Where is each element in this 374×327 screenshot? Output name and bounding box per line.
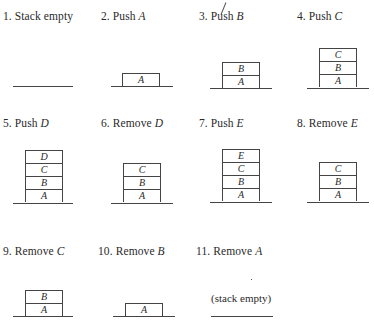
step-number: 3. [199, 10, 208, 22]
step-action-text: Push [15, 117, 38, 129]
step-action-text: Push [211, 117, 234, 129]
stack-cell: A [25, 303, 63, 316]
step-symbol: C [57, 245, 65, 257]
step-number: 5. [3, 117, 12, 129]
step-label: 6. Remove D [101, 117, 163, 129]
step-number: 10. [98, 245, 113, 257]
stack: BA [222, 62, 260, 88]
step-symbol: C [335, 10, 343, 22]
stack-cell: A [319, 74, 357, 87]
stack-baseline [13, 203, 73, 204]
stack-cell: C [319, 48, 357, 61]
step-number: 11. [196, 245, 210, 257]
stack-cell: B [319, 61, 357, 74]
stack-baseline [13, 86, 73, 87]
stack-cell: A [123, 189, 161, 202]
stack-cell: E [222, 149, 260, 162]
stack-cell: B [319, 175, 357, 188]
step-label: 2. Push A [101, 10, 146, 22]
step-label: 9. Remove C [3, 245, 65, 257]
step-label: 4. Push C [297, 10, 342, 22]
stack-cell: C [319, 162, 357, 175]
stack-baseline [111, 203, 173, 204]
stack: BA [25, 290, 63, 316]
step-symbol: D [41, 117, 49, 129]
step-label: 11. Remove A [196, 245, 262, 257]
step-action-text: Push [309, 10, 332, 22]
stack: CBA [319, 162, 357, 201]
step-number: 6. [101, 117, 110, 129]
stack-baseline [210, 202, 272, 203]
step-action-text: Push [113, 10, 136, 22]
step-action-text: Remove [113, 117, 152, 129]
step-number: 1. [3, 10, 12, 22]
step-symbol: A [139, 10, 146, 22]
stack-cell: B [123, 176, 161, 189]
step-symbol: D [155, 117, 163, 129]
stack-cell: B [222, 175, 260, 188]
stack-cell: A [122, 73, 160, 86]
step-label: 5. Push D [3, 117, 49, 129]
step-action-text: Remove [15, 245, 54, 257]
stack-baseline [113, 316, 175, 317]
step-action-text: Remove [213, 245, 252, 257]
stack-cell: A [125, 303, 163, 316]
stack-cell: D [25, 150, 63, 163]
stack-baseline [307, 88, 369, 89]
stack-cell: A [222, 75, 260, 88]
step-number: 4. [297, 10, 306, 22]
stack-cell: B [222, 62, 260, 75]
stack-baseline [111, 86, 173, 87]
stack-baseline [13, 316, 73, 317]
stack-cell: C [222, 162, 260, 175]
step-action-text: Remove [309, 117, 348, 129]
step-symbol: B [158, 245, 165, 257]
stack-cell: A [319, 188, 357, 201]
step-action-text: Remove [116, 245, 155, 257]
step-action-text: Stack empty [15, 10, 73, 22]
step-number: 7. [199, 117, 208, 129]
stack: CBA [319, 48, 357, 87]
step-label: 8. Remove E [297, 117, 358, 129]
step-label: 1. Stack empty [3, 10, 73, 22]
stack-cell: C [25, 163, 63, 176]
step-number: 8. [297, 117, 306, 129]
step-symbol: B [237, 10, 244, 22]
stack-empty-note: (stack empty) [211, 292, 271, 304]
step-number: 2. [101, 10, 110, 22]
stack-cell: B [25, 176, 63, 189]
stack: ECBA [222, 149, 260, 201]
stack-cell: A [25, 189, 63, 202]
step-label: 10. Remove B [98, 245, 165, 257]
step-symbol: E [237, 117, 244, 129]
step-number: 9. [3, 245, 12, 257]
step-label: 7. Push E [199, 117, 244, 129]
stack-baseline [211, 316, 273, 317]
stack-baseline [307, 202, 369, 203]
stack: A [125, 303, 163, 316]
step-symbol: A [255, 245, 262, 257]
stray-dot-mark [251, 279, 252, 280]
stack: A [122, 73, 160, 86]
stack-cell: C [123, 163, 161, 176]
step-symbol: E [351, 117, 358, 129]
stack-baseline [210, 88, 272, 89]
stack-cell: A [222, 188, 260, 201]
stack: DCBA [25, 150, 63, 202]
stack: CBA [123, 163, 161, 202]
stack-cell: B [25, 290, 63, 303]
